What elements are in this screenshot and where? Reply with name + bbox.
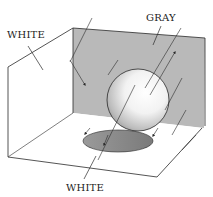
label-floor: WHITE: [66, 182, 104, 193]
label-left-wall: WHITE: [7, 29, 45, 40]
label-back-wall: GRAY: [146, 12, 176, 23]
light-diagram: WHITE GRAY WHITE: [0, 0, 213, 197]
leader-left-wall: [28, 46, 43, 70]
cast-shadow: [83, 130, 153, 152]
